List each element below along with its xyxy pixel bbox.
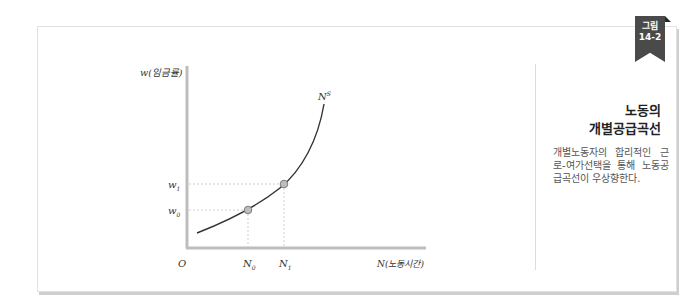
curve-label: NS [317,90,331,102]
point-n0-w0 [244,206,252,214]
divider [535,64,536,270]
figure-description: 개별노동자의 합리적인 근로-여가선택을 통해 노동공급곡선이 우상향한다. [553,146,669,185]
tick-n1: N1 [278,258,292,271]
point-n1-w1 [280,180,288,188]
tick-w0: w0 [168,205,181,218]
x-axis-label: N(노동시간) [376,259,424,269]
supply-curve [197,104,324,233]
badge-number: 14-2 [635,32,665,43]
figure-title-line1: 노동의 [589,102,661,120]
badge-fold [665,16,671,22]
origin-label: O [178,258,186,269]
figure-title: 노동의 개별공급곡선 [589,102,661,138]
tick-n0: N0 [242,258,256,271]
figure-title-line2: 개별공급곡선 [589,120,661,138]
badge-label: 그림 [635,21,665,32]
tick-w1: w1 [168,179,180,192]
y-axis-label: w(임금률) [140,67,183,78]
